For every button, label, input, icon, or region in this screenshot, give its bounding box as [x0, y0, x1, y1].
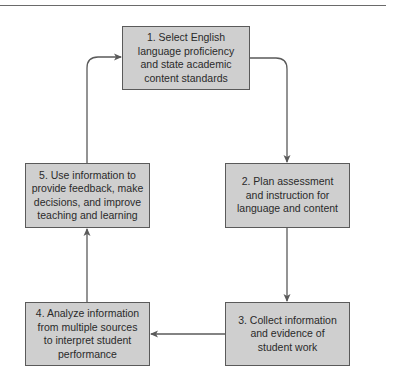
step-5-line: 5. Use information to: [32, 169, 143, 183]
step-3-line: and evidence of: [238, 327, 337, 341]
step-5-line: decisions, and improve: [32, 196, 143, 210]
step-2-line: 2. Plan assessment: [237, 175, 338, 189]
step-3-line: 3. Collect information: [238, 314, 337, 328]
step-4-line: performance: [36, 348, 139, 362]
step-5-line: teaching and learning: [32, 209, 143, 223]
step-2-line: and instruction for: [237, 189, 338, 203]
step-4-line: from multiple sources: [36, 321, 139, 335]
step-4-line: to interpret student: [36, 334, 139, 348]
step-2-line: language and content: [237, 202, 338, 216]
step-2-plan-assessment: 2. Plan assessment and instruction for l…: [225, 163, 350, 228]
arrow-1-to-2: [250, 58, 287, 162]
step-4-line: 4. Analyze information: [36, 307, 139, 321]
arrow-5-to-1: [87, 57, 121, 163]
step-5-use-information: 5. Use information to provide feedback, …: [25, 163, 150, 228]
step-3-collect-information: 3. Collect information and evidence of s…: [225, 302, 350, 366]
step-1-line: language proficiency: [138, 45, 234, 59]
step-1-select-standards: 1. Select English language proficiency a…: [122, 26, 250, 90]
step-1-line: 1. Select English: [138, 31, 234, 45]
step-3-line: student work: [238, 341, 337, 355]
step-1-line: content standards: [138, 72, 234, 86]
step-4-analyze-information: 4. Analyze information from multiple sou…: [25, 302, 150, 366]
step-5-line: provide feedback, make: [32, 182, 143, 196]
step-1-line: and state academic: [138, 58, 234, 72]
